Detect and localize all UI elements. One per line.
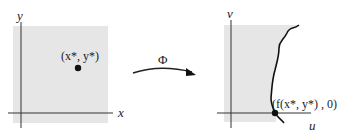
arrow-curve [133,68,192,73]
point-xstar-ystar [75,65,81,71]
left-panel: y x (x*, y*) [8,8,124,128]
left-region [13,26,108,123]
right-region-below-axis [224,113,276,122]
right-panel: v u (f(x*, y*) , 0) [217,6,337,133]
y-axis-label: y [15,8,23,23]
x-axis-label: x [117,105,124,120]
u-axis-label: u [309,118,316,133]
arrow-head-icon [186,68,196,76]
right-point-label: (f(x*, y*) , 0) [272,97,337,111]
v-axis-label: v [227,6,233,21]
diagram-canvas: y x (x*, y*) Φ v u (f(x*, y*) , 0) [0,0,359,135]
mapping-arrow: Φ [133,52,196,76]
left-point-label: (x*, y*) [61,49,99,63]
phi-label: Φ [158,52,168,67]
